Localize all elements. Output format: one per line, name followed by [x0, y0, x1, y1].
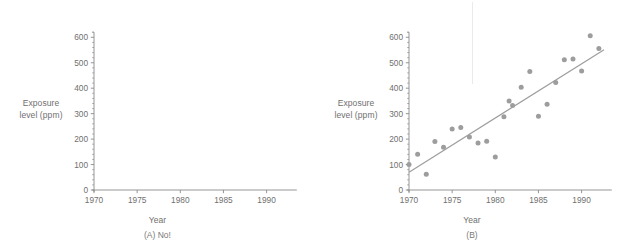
panel-b-data-point	[596, 46, 601, 51]
panel-a-y-tick-label: 600	[74, 32, 88, 42]
panel-b-data-point	[536, 114, 541, 119]
panel-a-y-tick-label: 0	[83, 185, 88, 195]
panel-a-x-axis-label-text: Year	[149, 215, 167, 225]
panel-a-x-tick-label: 1980	[171, 195, 190, 205]
panel-b-y-tick-label: 600	[389, 32, 403, 42]
panel-b-data-point	[507, 98, 512, 103]
panel-b-data-point	[562, 57, 567, 62]
panel-b-data-point	[501, 114, 506, 119]
panel-b-data-point	[519, 85, 524, 90]
panel-b-data-point	[432, 139, 437, 144]
panel-a-y-tick-label: 400	[74, 83, 88, 93]
panel-b-data-point	[415, 152, 420, 157]
panel-b-caption-text: (B)	[466, 230, 477, 240]
panel-a-x-tick-label: 1970	[85, 195, 104, 205]
panel-b-x-tick-label: 1980	[486, 195, 505, 205]
panel-b-data-point	[553, 80, 558, 85]
panel-b-data-point	[545, 102, 550, 107]
panel-b-x-tick-label: 1975	[443, 195, 462, 205]
panel-b-data-point	[493, 154, 498, 159]
panel-a: Exposure level (ppm) 1970197519801985199…	[0, 0, 315, 251]
panel-b-y-tick-label: 200	[389, 134, 403, 144]
panel-a-y-tick-label: 500	[74, 58, 88, 68]
figure-two-panel-scatter: Exposure level (ppm) 1970197519801985199…	[0, 0, 629, 251]
panel-b-x-tick-label: 1985	[529, 195, 548, 205]
panel-b-data-point	[476, 140, 481, 145]
panel-b-data-point	[441, 145, 446, 150]
panel-a-x-tick-label: 1985	[214, 195, 233, 205]
panel-b-x-axis-label: Year	[315, 215, 629, 225]
panel-b-data-point	[579, 68, 584, 73]
panel-b-data-point	[510, 103, 515, 108]
panel-b: Exposure level (ppm) 1970197519801985199…	[315, 0, 629, 251]
panel-a-plot-area: 197019751980198519900100200300400500600	[0, 0, 315, 251]
panel-a-caption-text: (A) No!	[144, 230, 171, 240]
panel-a-x-axis-label: Year	[0, 215, 315, 225]
panel-b-data-point	[588, 33, 593, 38]
panel-b-y-tick-label: 100	[389, 160, 403, 170]
panel-b-caption: (B)	[315, 230, 629, 240]
panel-b-data-point	[527, 69, 532, 74]
panel-b-y-tick-label: 400	[389, 83, 403, 93]
panel-a-caption: (A) No!	[0, 230, 315, 240]
panel-a-x-tick-label: 1990	[257, 195, 276, 205]
panel-b-y-tick-label: 300	[389, 109, 403, 119]
panel-a-x-tick-label: 1975	[128, 195, 147, 205]
panel-b-data-point	[407, 162, 412, 167]
panel-a-y-tick-label: 200	[74, 134, 88, 144]
panel-a-y-tick-label: 300	[74, 109, 88, 119]
panel-b-x-tick-label: 1990	[572, 195, 591, 205]
panel-b-plot-area: 197019751980198519900100200300400500600	[315, 0, 629, 251]
panel-b-y-tick-label: 0	[398, 185, 403, 195]
panel-b-data-point	[424, 172, 429, 177]
panel-a-y-tick-label: 100	[74, 160, 88, 170]
panel-b-regression-line	[409, 50, 604, 172]
panel-b-data-point	[570, 56, 575, 61]
panel-b-data-point	[467, 135, 472, 140]
panel-b-y-tick-label: 500	[389, 58, 403, 68]
panel-b-x-tick-label: 1970	[400, 195, 419, 205]
panel-b-data-point	[484, 139, 489, 144]
panel-b-data-point	[458, 125, 463, 130]
panel-b-x-axis-label-text: Year	[463, 215, 481, 225]
panel-b-data-point	[450, 126, 455, 131]
